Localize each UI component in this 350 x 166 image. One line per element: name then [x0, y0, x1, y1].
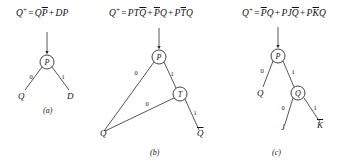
edge-label-c-p0: 0	[260, 67, 263, 74]
edge-a-p-0	[25, 67, 42, 90]
leaf-b-q-bar: Q	[197, 128, 204, 138]
leaf-c-q: Q	[257, 88, 264, 98]
figure-container: Q+=QP+DP P 0 1 Q D (a) Q+=PTQ+PQ+PTQ	[0, 0, 350, 166]
edge-label-b-p0: 0	[134, 69, 137, 76]
edge-c-p-0	[263, 61, 273, 87]
edge-label-b-p1: 1	[170, 70, 173, 77]
leaf-c-j: J	[281, 122, 285, 132]
leaf-b-q: Q	[100, 128, 107, 138]
edge-b-p-0	[104, 62, 154, 131]
edge-label-a-0: 0	[29, 73, 32, 80]
edge-c-q-0	[285, 98, 293, 124]
tree-diagram-b: P T 0 1 0 1	[100, 0, 230, 166]
leaf-c-k-bar: K	[317, 120, 323, 130]
node-b-p-label: P	[156, 53, 162, 62]
panel-b: Q+=PTQ+PQ+PTQ P T 0 1 0 1 Q Q (b)	[100, 0, 230, 166]
edge-label-c-p1: 1	[291, 68, 294, 75]
tree-diagram-c: P Q 0 1 0 1	[232, 0, 350, 166]
node-c-p-label: P	[275, 52, 281, 61]
caption-c: (c)	[272, 148, 281, 157]
tree-diagram-a: P 0 1	[0, 0, 115, 166]
caption-a: (a)	[43, 106, 52, 115]
node-c-q-label: Q	[295, 89, 301, 98]
edge-b-t-0	[105, 98, 174, 131]
edge-label-a-1: 1	[61, 73, 64, 80]
panel-a: Q+=QP+DP P 0 1 Q D (a)	[0, 0, 115, 166]
leaf-a-q: Q	[18, 91, 25, 101]
leaf-a-d: D	[67, 91, 74, 101]
edge-label-b-t0: 0	[145, 100, 148, 107]
edge-c-q-1	[304, 98, 320, 122]
edge-b-t-1	[185, 99, 199, 130]
edge-label-c-q1: 1	[313, 104, 316, 111]
edge-label-c-q0: 0	[281, 104, 284, 111]
edge-label-b-t1: 1	[193, 109, 196, 116]
node-a-p-label: P	[44, 58, 50, 67]
caption-b: (b)	[150, 148, 159, 157]
node-b-t-label: T	[178, 90, 183, 99]
panel-c: Q+=PQ+PJQ+PKQ P Q 0 1 0 1 Q J K	[232, 0, 350, 166]
